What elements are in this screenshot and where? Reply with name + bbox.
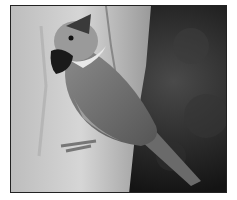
bird-photo [11, 6, 227, 193]
bird-eye [69, 36, 74, 41]
photo-frame [10, 5, 227, 193]
